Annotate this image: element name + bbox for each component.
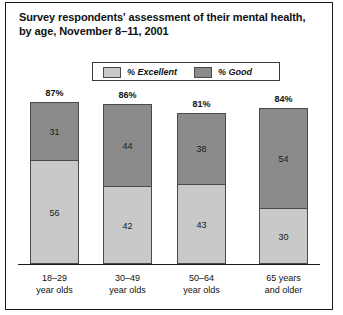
bar-1: 3156 [30, 102, 79, 264]
x-axis-label-2: 30–49year olds [85, 272, 170, 296]
x-axis-label-2-line-2: year olds [85, 284, 170, 296]
bar-2-value-excellent: 42 [122, 221, 132, 231]
bar-4: 5430 [259, 108, 308, 264]
bar-1-value-excellent: 56 [49, 208, 59, 218]
chart-figure: Survey respondents' assessment of their … [0, 0, 343, 315]
x-axis-label-3: 50–64year olds [159, 272, 244, 296]
x-axis-label-3-line-2: year olds [159, 284, 244, 296]
bar-2-segment-excellent: 42 [104, 187, 151, 264]
bar-4-value-good: 54 [278, 154, 288, 164]
bar-2-value-good: 44 [122, 141, 132, 151]
bar-3-value-excellent: 43 [196, 220, 206, 230]
bar-3-segment-good: 38 [178, 114, 225, 185]
bar-3-value-good: 38 [196, 144, 206, 154]
bar-4-segment-excellent: 30 [260, 209, 307, 264]
plot-area: 315687%18–29year olds444286%30–49year ol… [0, 0, 343, 315]
bar-3: 3843 [177, 113, 226, 264]
bar-2-segment-good: 44 [104, 105, 151, 187]
x-axis-label-2-line-1: 30–49 [85, 272, 170, 284]
x-axis-label-4-line-2: and older [241, 284, 326, 296]
bar-1-value-good: 31 [49, 127, 59, 137]
bar-1-segment-good: 31 [31, 103, 78, 161]
bar-4-total-label: 84% [249, 94, 318, 104]
bar-4-value-excellent: 30 [278, 232, 288, 242]
x-axis-label-3-line-1: 50–64 [159, 272, 244, 284]
bar-1-total-label: 87% [20, 88, 89, 98]
bar-1-segment-excellent: 56 [31, 161, 78, 264]
x-axis-label-4-line-1: 65 years [241, 272, 326, 284]
bar-2-total-label: 86% [93, 90, 162, 100]
bar-3-total-label: 81% [167, 99, 236, 109]
bar-2: 4442 [103, 104, 152, 264]
bar-3-segment-excellent: 43 [178, 185, 225, 264]
x-axis-label-4: 65 yearsand older [241, 272, 326, 296]
bar-4-segment-good: 54 [260, 109, 307, 209]
x-axis-line [18, 264, 320, 265]
